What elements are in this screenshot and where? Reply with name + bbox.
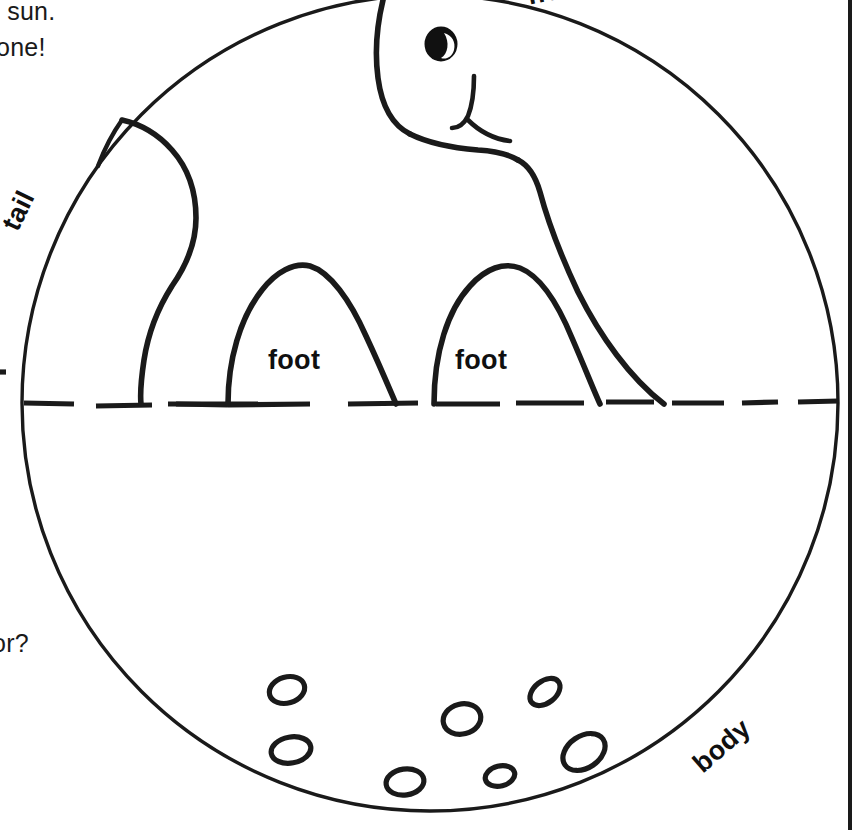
animal-outline <box>98 0 664 404</box>
haunch-stroke <box>98 120 122 166</box>
part-label-foot-left: foot <box>268 345 320 375</box>
head-forehead-contour <box>376 0 410 134</box>
tail-rear-contour <box>122 120 196 404</box>
cropped-text-lower-left: oor? <box>0 628 29 658</box>
figure-artboard <box>0 0 852 830</box>
part-label-foot-right: foot <box>455 345 507 375</box>
spot <box>483 763 517 790</box>
worksheet-page: e sun. none! oor? head tail body foot fo… <box>0 0 852 830</box>
spot <box>440 700 484 738</box>
foot-arch-left <box>228 265 396 404</box>
spot <box>384 766 425 797</box>
mouth-line <box>468 120 510 141</box>
cropped-text-top-line-2: none! <box>0 32 46 62</box>
spot <box>266 673 308 708</box>
spot <box>269 734 313 767</box>
spot-group <box>266 673 612 798</box>
page-edge-rule <box>848 0 852 830</box>
spot <box>556 726 612 778</box>
spot <box>525 673 565 711</box>
eye <box>426 28 457 61</box>
cropped-text-top-line-1: e sun. <box>0 0 55 26</box>
dashed-fold-line <box>0 372 838 406</box>
